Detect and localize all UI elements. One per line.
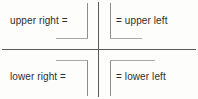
lower-right-bracket-shoulder bbox=[110, 60, 155, 61]
upper-left-quadrant-label: upper right = bbox=[10, 15, 68, 27]
lower-left-quadrant-label: lower right = bbox=[10, 71, 66, 83]
upper-left-bracket-vertical bbox=[87, 3, 88, 39]
upper-left-bracket-foot bbox=[56, 38, 88, 39]
lower-left-bracket-vertical bbox=[87, 60, 88, 96]
upper-right-bracket-foot bbox=[110, 38, 142, 39]
horizontal-divider-line bbox=[2, 49, 196, 50]
lower-right-quadrant-label: = lower left bbox=[116, 71, 166, 83]
lower-right-bracket-vertical bbox=[110, 60, 111, 96]
upper-right-quadrant-label: = upper left bbox=[116, 15, 168, 27]
quadrant-diagram: upper right = = upper left lower right =… bbox=[0, 0, 198, 99]
upper-right-bracket-vertical bbox=[110, 3, 111, 39]
lower-left-bracket-shoulder bbox=[56, 60, 88, 61]
